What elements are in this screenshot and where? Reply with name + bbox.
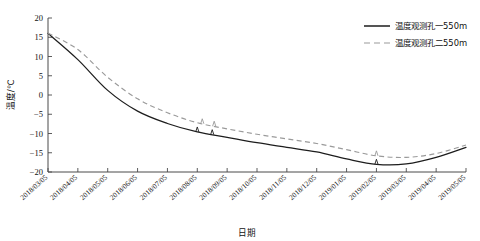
x-tick-label: 2018/06/05 (108, 173, 139, 202)
y-tick-label: 10 (35, 52, 44, 62)
data-spike-6 (375, 151, 378, 156)
data-spike-3 (201, 119, 204, 124)
y-tick-label: 0 (39, 90, 43, 100)
y-axis-title: 温度/℃ (5, 79, 16, 110)
x-tick-label: 2018/05/05 (78, 173, 109, 202)
x-tick-label: 2018/07/05 (138, 173, 169, 202)
y-tick-label: −5 (34, 109, 43, 119)
x-tick-label: 2019/05/05 (436, 173, 467, 202)
data-spike-1 (196, 127, 199, 132)
y-tick-label: −15 (30, 148, 43, 158)
data-spike-2 (211, 130, 214, 135)
data-spike-5 (375, 159, 378, 164)
chart-figure: 20151050−5−10−15−20温度/℃2018/03/052018/04… (0, 0, 480, 241)
x-tick-label: 2018/10/05 (227, 173, 258, 202)
x-axis-title: 日期 (238, 228, 256, 238)
legend-label-2: 温度观测孔二550m (395, 38, 467, 48)
legend-label-1: 温度观测孔一550m (395, 21, 467, 31)
series-line-1 (48, 33, 466, 164)
data-spike-4 (213, 121, 216, 126)
x-tick-label: 2018/11/05 (257, 173, 288, 202)
y-tick-label: 5 (39, 71, 43, 81)
x-tick-label: 2018/09/05 (197, 173, 228, 202)
y-tick-label: 20 (35, 13, 44, 23)
x-tick-label: 2018/04/05 (48, 173, 79, 202)
x-tick-label: 2018/08/05 (168, 173, 199, 202)
x-tick-label: 2018/03/05 (18, 173, 49, 202)
y-tick-label: −10 (30, 129, 43, 139)
x-tick-label: 2019/04/05 (406, 173, 437, 202)
x-tick-label: 2018/12/05 (287, 173, 318, 202)
series-line-2 (48, 33, 466, 157)
x-tick-label: 2019/01/05 (317, 173, 348, 202)
x-tick-label: 2019/03/05 (377, 173, 408, 202)
x-tick-label: 2019/02/05 (347, 173, 378, 202)
y-tick-label: 15 (35, 32, 44, 42)
temperature-line-chart: 20151050−5−10−15−20温度/℃2018/03/052018/04… (0, 0, 480, 241)
